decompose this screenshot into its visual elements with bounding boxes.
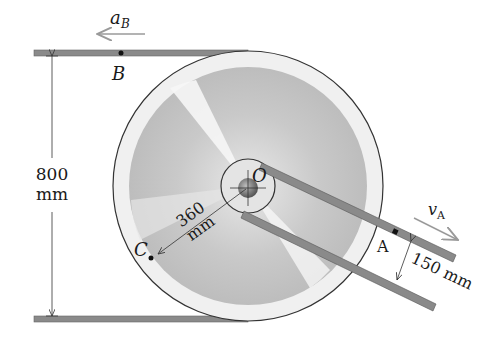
height-value: 800 [36,164,68,184]
point-B-marker [119,51,124,56]
wheel-diagram: 800 mm B a B O 360 mm C A v A 150 mm [0,0,502,341]
point-O-label: O [252,165,267,186]
wheel [113,51,383,321]
point-C-marker [149,256,154,261]
point-A-label: A [376,237,389,256]
accel-B-label: a [110,7,121,28]
point-C-label: C [134,239,148,260]
vel-A-arrow [414,218,458,240]
vel-A-subscript: A [436,209,446,222]
gap-dimension [397,241,411,280]
accel-B-subscript: B [120,17,130,31]
height-unit: mm [36,184,68,204]
vel-A-label: v [428,200,437,219]
point-B-label: B [111,63,125,84]
